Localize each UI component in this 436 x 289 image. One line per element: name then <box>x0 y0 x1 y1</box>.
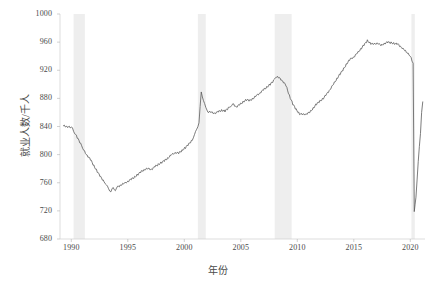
x-tick-label-2005: 2005 <box>226 243 256 252</box>
employment-line-chart: 6807207608008408809209601000 19901995200… <box>0 0 436 289</box>
x-tick-label-1990: 1990 <box>56 243 86 252</box>
y-tick-label-960: 960 <box>26 37 52 46</box>
x-tick-label-2000: 2000 <box>169 243 199 252</box>
band-recession-2001 <box>198 14 206 239</box>
band-recession-2008 <box>275 14 292 239</box>
employment-series-line <box>63 40 422 212</box>
x-tick-label-2020: 2020 <box>395 243 425 252</box>
x-axis-title: 年份 <box>0 262 436 277</box>
x-tick-label-2015: 2015 <box>339 243 369 252</box>
x-tick-label-1995: 1995 <box>113 243 143 252</box>
band-recession-1990 <box>74 14 85 239</box>
y-tick-label-1000: 1000 <box>26 9 52 18</box>
recession-shaded-bands <box>74 14 415 239</box>
y-tick-label-680: 680 <box>26 234 52 243</box>
y-tick-label-720: 720 <box>26 206 52 215</box>
x-tick-label-2010: 2010 <box>282 243 312 252</box>
axis-spines <box>60 14 425 239</box>
axis-tickmarks <box>57 14 410 242</box>
y-axis-title: 就业人数/千人 <box>17 56 32 196</box>
